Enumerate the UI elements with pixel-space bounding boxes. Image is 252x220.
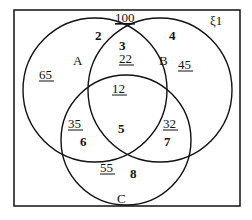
region-b-only: 4: [169, 28, 176, 43]
a-and-c-total: 35: [68, 116, 81, 131]
region-a-b-c: 5: [118, 121, 125, 136]
region-b-c-only: 7: [164, 134, 171, 149]
set-b-total: 45: [178, 57, 191, 72]
universal-total: 100: [115, 10, 135, 25]
region-a-c-only: 6: [80, 134, 87, 149]
region-a-b-only: 3: [119, 38, 126, 53]
a-and-b-total: 22: [119, 51, 132, 66]
a-and-b-and-c-total: 12: [112, 81, 125, 96]
set-b-label: B: [159, 53, 168, 68]
set-c-label: C: [117, 191, 126, 206]
universal-set-label: ξ1: [210, 13, 222, 28]
b-and-c-total: 32: [163, 116, 176, 131]
region-a-only: 2: [95, 28, 102, 43]
set-a-label: A: [73, 53, 83, 68]
set-a-total: 65: [39, 67, 52, 82]
set-c-total: 55: [100, 160, 113, 175]
circle-b: [88, 18, 232, 162]
universal-set-frame: [14, 10, 240, 206]
region-c-only: 8: [130, 166, 137, 181]
venn-diagram: 100 ξ1 A B C 65 45 55 22 35 32 12 2 3 4 …: [0, 0, 252, 220]
